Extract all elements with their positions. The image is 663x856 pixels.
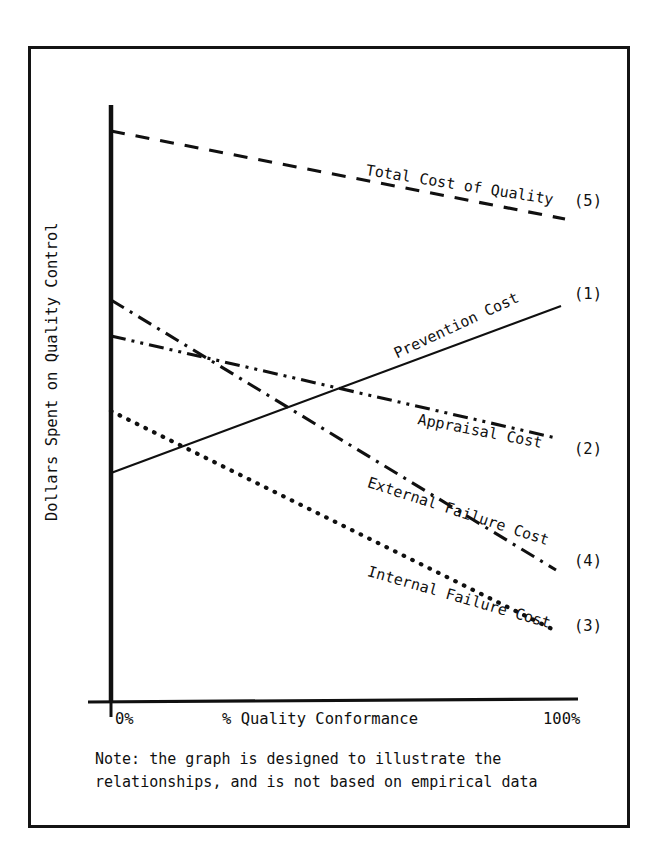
series-index-prevention-cost: (1)	[574, 285, 602, 303]
series-index-external-failure-cost: (4)	[574, 552, 602, 570]
series-index-internal-failure-cost: (3)	[574, 617, 602, 635]
series-index-appraisal-cost: (2)	[574, 440, 602, 458]
series-index-total-cost-of-quality: (5)	[574, 192, 602, 210]
x-axis-tick-label-max: 100%	[543, 710, 580, 728]
figure-note: Note: the graph is designed to illustrat…	[95, 748, 595, 794]
y-axis-title: Dollars Spent on Quality Control	[43, 261, 61, 521]
x-axis-tick-label-min: 0%	[115, 710, 134, 728]
x-axis-title: % Quality Conformance	[222, 710, 418, 728]
figure-page: Dollars Spent on Quality Control 0% % Qu…	[0, 0, 663, 856]
